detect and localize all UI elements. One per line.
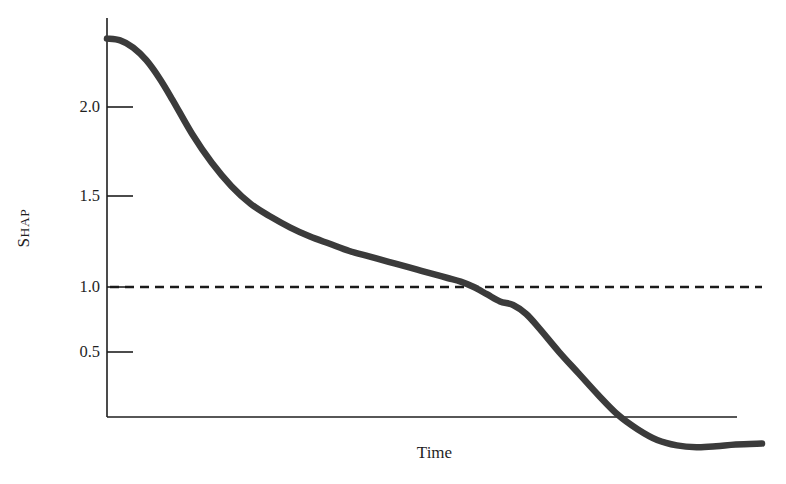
- axes-group: [107, 18, 737, 417]
- plot-area: [0, 0, 786, 484]
- shap-curve: [107, 39, 762, 448]
- y-tick-marks: [107, 107, 133, 352]
- x-axis-label: Time: [107, 443, 762, 463]
- chart-figure: SHAP 2.0 1.5 1.0 0.5: [0, 0, 786, 484]
